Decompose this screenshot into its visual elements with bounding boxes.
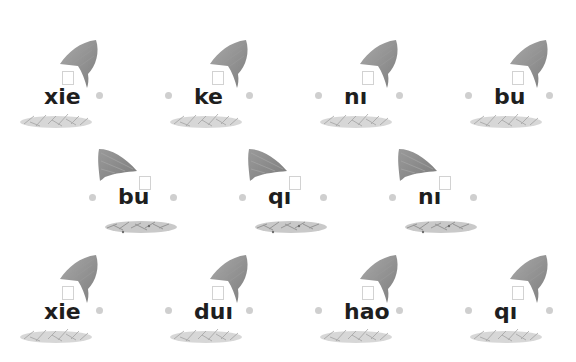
leaf-icon (97, 147, 139, 181)
tone-box (62, 71, 74, 85)
tone-box (62, 286, 74, 300)
dot-icon (315, 92, 322, 99)
pinyin-word: qı (268, 186, 291, 208)
pinyin-card-dui: duı (150, 245, 300, 355)
leaf-icon (397, 147, 439, 181)
grass-icon (166, 110, 246, 132)
pinyin-card-ke: ke (150, 30, 300, 140)
dot-icon (165, 92, 172, 99)
pinyin-card-bu: bu (450, 30, 576, 140)
tone-box (512, 286, 524, 300)
grass-icon (466, 110, 546, 132)
tone-box (212, 71, 224, 85)
pinyin-card-hao: hao (300, 245, 450, 355)
dot-icon (96, 92, 103, 99)
pinyin-card-ni: nı (300, 30, 450, 140)
pinyin-word: xie (44, 301, 81, 323)
dot-icon (315, 307, 322, 314)
grass-icon (16, 325, 96, 347)
dot-icon (396, 307, 403, 314)
dot-icon (89, 194, 96, 201)
dot-icon (465, 92, 472, 99)
tone-box (512, 71, 524, 85)
pinyin-card-xie: xie (0, 245, 150, 355)
tone-box (362, 286, 374, 300)
tone-box (212, 286, 224, 300)
pinyin-word: nı (344, 86, 367, 108)
pinyin-word: bu (118, 186, 149, 208)
dot-icon (246, 307, 253, 314)
pinyin-card-xie: xie (0, 30, 150, 140)
dot-icon (546, 92, 553, 99)
grass-icon (316, 110, 396, 132)
grass-icon (316, 325, 396, 347)
grass-icon (16, 110, 96, 132)
dot-icon (170, 194, 177, 201)
pinyin-word: ke (194, 86, 223, 108)
pinyin-word: xie (44, 86, 81, 108)
leaf-icon (247, 147, 289, 181)
dot-icon (165, 307, 172, 314)
pinyin-word: bu (494, 86, 525, 108)
tone-box (362, 71, 374, 85)
dot-icon (470, 194, 477, 201)
dot-icon (546, 307, 553, 314)
grass-icon (401, 216, 481, 236)
dot-icon (396, 92, 403, 99)
pinyin-word: hao (344, 301, 390, 323)
dot-icon (389, 194, 396, 201)
pinyin-word: nı (418, 186, 441, 208)
grass-icon (166, 325, 246, 347)
pinyin-card-qi: qı (225, 140, 375, 250)
dot-icon (465, 307, 472, 314)
pinyin-card-ni: nı (375, 140, 525, 250)
grass-icon (251, 216, 331, 236)
grass-icon (101, 216, 181, 236)
pinyin-card-bu: bu (75, 140, 225, 250)
dot-icon (320, 194, 327, 201)
pinyin-card-qi: qı (450, 245, 576, 355)
dot-icon (96, 307, 103, 314)
dot-icon (246, 92, 253, 99)
pinyin-word: duı (194, 301, 233, 323)
dot-icon (239, 194, 246, 201)
pinyin-word: qı (494, 301, 517, 323)
grass-icon (466, 325, 546, 347)
